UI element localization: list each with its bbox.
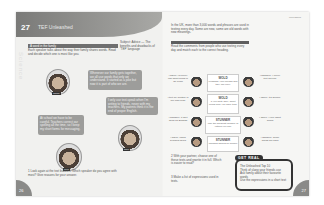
right-page: Unleashed In the UK, more than 3,000 wor… (163, 12, 309, 196)
avatar-right-1 (243, 76, 254, 87)
unit-banner: 27 TEF Unleashed (16, 12, 162, 37)
page-number-left: 26 (16, 180, 32, 196)
intro-text-right: In the UK, more than 3,000 words and phr… (171, 24, 249, 35)
right-chat-3: I agree, I love short forms (259, 116, 281, 122)
side-note: Subject: Advice — The benefits and drawb… (120, 41, 160, 52)
speech-bubble-2: I only use text-speak when I'm writing t… (106, 97, 158, 115)
avatar-left-2 (191, 96, 202, 107)
left-page: 27 TEF Unleashed Science A word in the f… (16, 12, 162, 196)
left-chat-4: I agree, using symbols helps (167, 136, 189, 142)
get-real-item-3: Use the expressions in a short text (240, 179, 288, 183)
intro-text: Each speaker talks about the way their f… (28, 49, 118, 56)
right-chat-1: I disagree, I never text anyone (259, 74, 281, 80)
avatar-left-4 (191, 136, 202, 147)
get-real-box: GET REAL The Unleashed Top 10 Think of s… (235, 159, 293, 191)
caption-2: Ravi (123, 148, 130, 151)
heading-card-4: STUNNER Phrases should be simple (207, 136, 239, 152)
heading-card-1: WOLD Message your friends and they will … (207, 74, 239, 92)
book-spread: 27 TEF Unleashed Science A word in the f… (16, 12, 309, 196)
left-chat-3: I disagree, it isn't good for English (167, 116, 189, 122)
speaker-photo-3 (56, 143, 82, 171)
page-number-right: 27 (293, 180, 309, 196)
right-chat-2: I agree, it's quicker (259, 96, 281, 99)
left-chat-1: I agree: I'd never use short forms in an… (167, 74, 189, 83)
unit-title: TEF Unleashed (38, 24, 73, 30)
running-head: Unleashed (289, 16, 301, 19)
get-real-tab: GET REAL (235, 155, 263, 161)
exercise-1: 1 Look again at the text bubbles. Which … (28, 170, 123, 177)
heading-card-2: WOLD If you write daily, short forms hel… (207, 94, 239, 114)
sub-text: Read the comments from people who use te… (171, 45, 249, 52)
left-chat-2: I text my brother in our own code (167, 96, 189, 102)
heading-card-3: STUNNER Use the smallest number of lette… (205, 116, 241, 134)
avatar-right-3 (243, 116, 254, 127)
right-chat-4: I disagree, some words are hard (259, 136, 281, 142)
caption-1: Jamie (52, 92, 61, 95)
unit-number: 27 (21, 23, 30, 32)
avatar-left-1 (191, 76, 202, 87)
exercise-3: 3 Make a list of expressions used in tex… (171, 176, 223, 183)
avatar-right-2 (243, 96, 254, 107)
avatar-right-4 (243, 136, 254, 147)
avatar-left-3 (191, 116, 202, 127)
speech-bubble-3: At school we have to be careful. Teacher… (38, 115, 84, 135)
vertical-watermark: Science (18, 52, 24, 182)
exercise-2: 2 With your partner, choose one of these… (171, 155, 223, 166)
speech-bubble-1: Whenever our family gets together, we al… (88, 70, 142, 90)
